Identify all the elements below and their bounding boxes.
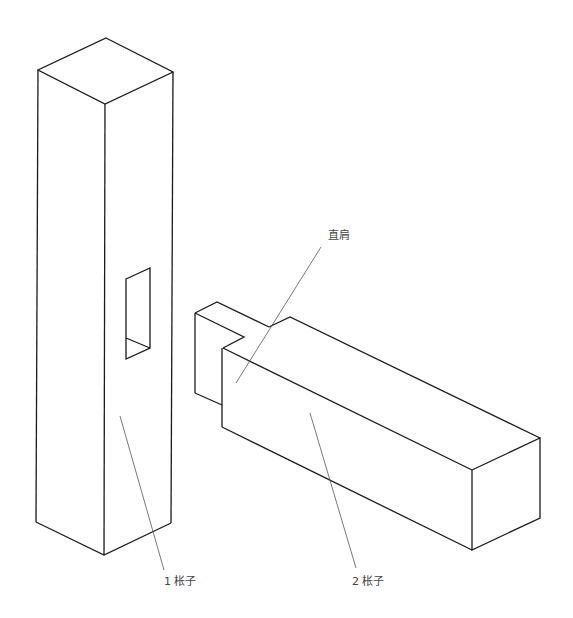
post-right-edge bbox=[171, 72, 173, 523]
tenon-top-back bbox=[195, 302, 269, 327]
rail-part-2 bbox=[195, 302, 540, 550]
label-shoulder: 直肩 bbox=[328, 230, 350, 241]
rail-bottom-edge bbox=[222, 427, 472, 550]
label-post: 1 枨子 bbox=[164, 576, 197, 587]
rail-top-back-edge bbox=[269, 317, 540, 438]
leader-post bbox=[120, 416, 164, 570]
label-rail: 2 枨子 bbox=[352, 576, 385, 587]
mortise-inner-edge bbox=[126, 338, 150, 348]
post-front-edge bbox=[104, 104, 105, 555]
tenon-bottom-edge bbox=[195, 393, 222, 405]
joinery-diagram bbox=[0, 0, 573, 618]
post-left-edge bbox=[36, 70, 38, 522]
post-part-1 bbox=[36, 38, 173, 555]
leader-rail bbox=[310, 413, 356, 568]
tenon-top-front bbox=[195, 313, 244, 348]
mortise-opening bbox=[126, 268, 150, 359]
rail-end-face bbox=[472, 438, 540, 550]
post-top-face bbox=[38, 38, 173, 104]
leader-shoulder bbox=[236, 247, 321, 383]
rail-top-front-edge bbox=[223, 348, 472, 470]
